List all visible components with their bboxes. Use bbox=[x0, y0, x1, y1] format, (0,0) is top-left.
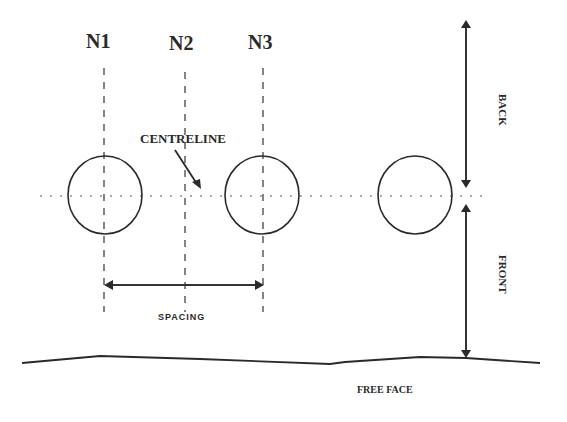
spacing-arrow-left-head bbox=[104, 280, 113, 290]
front-arrow-top-head bbox=[461, 204, 471, 212]
centreline-arrow-head bbox=[192, 179, 201, 189]
free-face-line bbox=[22, 356, 540, 364]
back-arrow-top-head bbox=[461, 20, 471, 28]
hole-circle-2 bbox=[225, 156, 299, 234]
spacing-label: SPACING bbox=[158, 312, 205, 322]
front-label: FRONT bbox=[497, 255, 509, 294]
blast-hole-layout-diagram bbox=[0, 0, 567, 422]
centreline-arrow bbox=[175, 150, 197, 184]
hole-label-n2: N2 bbox=[169, 32, 193, 55]
back-arrow-bottom-head bbox=[461, 180, 471, 188]
front-arrow-bottom-head bbox=[461, 350, 471, 358]
back-label: BACK bbox=[497, 94, 509, 126]
hole-label-n3: N3 bbox=[248, 31, 272, 54]
hole-label-n1: N1 bbox=[86, 30, 110, 53]
hole-circle-3 bbox=[378, 156, 452, 234]
hole-circle-1 bbox=[68, 156, 142, 234]
centreline-label: CENTRELINE bbox=[140, 131, 226, 147]
free-face-label: FREE FACE bbox=[357, 384, 413, 395]
